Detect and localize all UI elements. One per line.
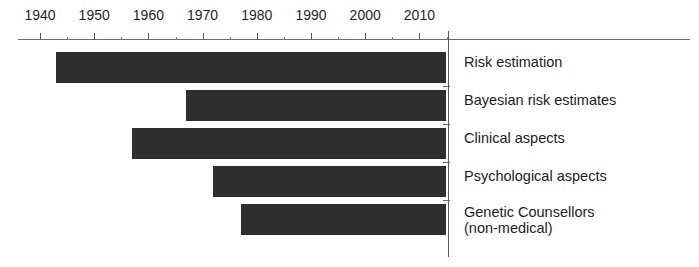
- axis-tick-minor: [230, 37, 231, 40]
- timeline-row-label: Genetic Counsellors (non-medical): [464, 204, 595, 236]
- axis-tick-major: [203, 33, 204, 40]
- axis-tick-major: [148, 33, 149, 40]
- row-separator-tick: [443, 86, 450, 87]
- axis-tick-label: 1960: [133, 8, 164, 23]
- axis-tick-label: 1950: [79, 8, 110, 23]
- timeline-chart: 19401950196019701980199020002010 Risk es…: [0, 0, 699, 267]
- axis-tick-major: [419, 33, 420, 40]
- axis-tick-label: 2010: [404, 8, 435, 23]
- axis-tick-label: 1940: [24, 8, 55, 23]
- axis-tick-minor: [121, 37, 122, 40]
- timeline-bar: [186, 90, 446, 121]
- bar-end-guideline: [448, 31, 449, 257]
- axis-tick-label: 2000: [350, 8, 381, 23]
- timeline-row-label: Risk estimation: [464, 54, 562, 70]
- axis-tick-major: [311, 33, 312, 40]
- timeline-row-label: Clinical aspects: [464, 130, 565, 146]
- axis-tick-minor: [338, 37, 339, 40]
- row-separator-tick: [443, 162, 450, 163]
- timeline-bar: [241, 204, 447, 235]
- timeline-bar: [132, 128, 446, 159]
- axis-tick-label: 1980: [241, 8, 272, 23]
- axis-tick-minor: [392, 37, 393, 40]
- axis-tick-minor: [284, 37, 285, 40]
- axis-tick-minor: [176, 37, 177, 40]
- axis-tick-label: 1990: [295, 8, 326, 23]
- axis-tick-minor: [67, 37, 68, 40]
- timeline-row-label: Bayesian risk estimates: [464, 92, 616, 108]
- timeline-bar: [56, 52, 446, 83]
- axis-tick-major: [365, 33, 366, 40]
- axis-tick-label: 1970: [187, 8, 218, 23]
- axis-tick-major: [257, 33, 258, 40]
- row-separator-tick: [443, 124, 450, 125]
- time-axis-line: [18, 39, 690, 40]
- timeline-bar: [213, 166, 446, 197]
- axis-tick-major: [40, 33, 41, 40]
- axis-tick-major: [94, 33, 95, 40]
- timeline-row-label: Psychological aspects: [464, 168, 607, 184]
- row-separator-tick: [443, 200, 450, 201]
